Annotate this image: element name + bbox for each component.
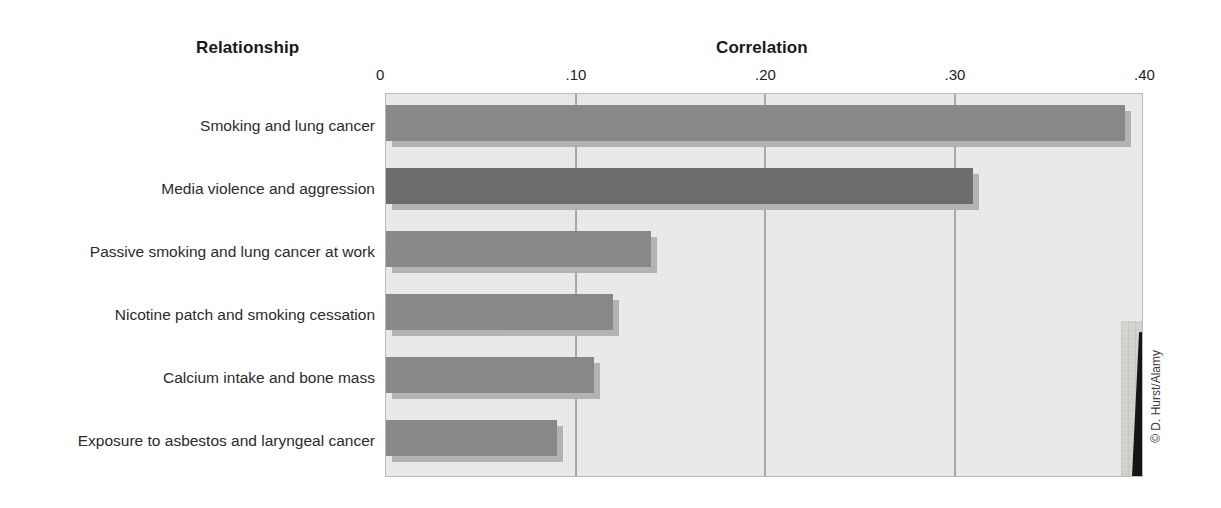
relationship-label: Calcium intake and bone mass: [20, 370, 375, 386]
bar: [386, 231, 651, 267]
bar: [386, 420, 557, 456]
relationship-label: Media violence and aggression: [20, 181, 375, 197]
bar: [386, 105, 1125, 141]
bar: [386, 168, 973, 204]
correlation-axis-title: Correlation: [716, 38, 808, 58]
x-tick-label: .40: [1134, 66, 1155, 83]
x-tick-label: .20: [755, 66, 776, 83]
relationship-column-heading: Relationship: [196, 38, 299, 58]
photo-inset: [1121, 321, 1143, 477]
plot-area: [385, 93, 1143, 477]
gridline: [575, 94, 577, 476]
x-tick-label: 0: [376, 66, 384, 83]
relationship-label-column: Smoking and lung cancerMedia violence an…: [20, 97, 375, 477]
relationship-label: Nicotine patch and smoking cessation: [20, 307, 375, 323]
relationship-label: Exposure to asbestos and laryngeal cance…: [20, 433, 375, 449]
gridline: [954, 94, 956, 476]
tv-screen: [1139, 343, 1143, 477]
x-tick-label: .30: [945, 66, 966, 83]
bar: [386, 357, 594, 393]
gridline: [764, 94, 766, 476]
photo-credit: © D. Hurst/Alamy: [1149, 350, 1163, 443]
relationship-label: Smoking and lung cancer: [20, 118, 375, 134]
bar: [386, 294, 613, 330]
correlation-bar-chart-figure: Relationship Correlation 0.10.20.30.40 S…: [0, 0, 1221, 508]
relationship-label: Passive smoking and lung cancer at work: [20, 244, 375, 260]
x-tick-label: .10: [566, 66, 587, 83]
